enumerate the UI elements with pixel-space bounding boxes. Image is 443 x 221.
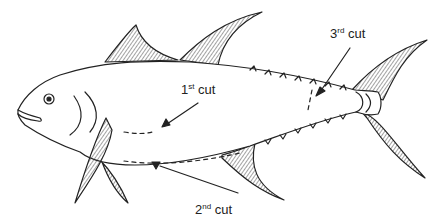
tail-lower-lobe xyxy=(362,112,425,178)
second-cut-label: 2nd cut xyxy=(195,203,232,216)
first-cut-suffix: st xyxy=(188,82,194,91)
fish-cut-diagram: 1st cut 2nd cut 3rd cut xyxy=(0,0,443,221)
third-cut-suffix: rd xyxy=(337,26,344,35)
first-cut-label: 1st cut xyxy=(181,83,215,96)
first-cut-text: cut xyxy=(198,82,215,97)
third-cut-text: cut xyxy=(348,26,365,41)
second-cut-suffix: nd xyxy=(202,202,211,211)
second-cut-text: cut xyxy=(215,202,232,217)
fish-body xyxy=(18,61,381,165)
third-cut-label: 3rd cut xyxy=(330,27,365,40)
fish-illustration xyxy=(0,0,443,221)
dorsal-fin-front xyxy=(105,25,178,62)
dorsal-fin-rear xyxy=(180,12,262,65)
pelvic-fin xyxy=(100,160,128,203)
